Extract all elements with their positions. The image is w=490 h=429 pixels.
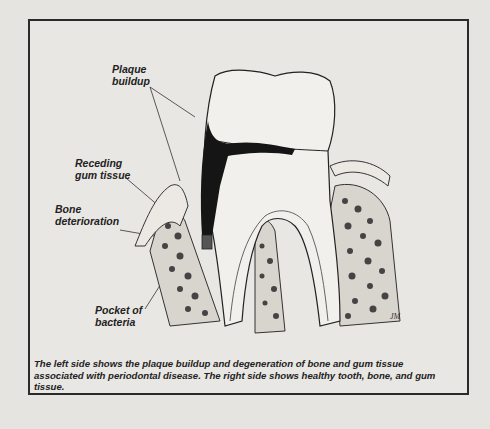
label-line: Plaque: [112, 63, 150, 75]
tooth-drawing-icon: JM: [30, 21, 467, 351]
figure-caption: The left side shows the plaque buildup a…: [34, 358, 454, 393]
label-line: deterioration: [55, 215, 119, 227]
label-line: bacteria: [95, 316, 142, 328]
label-bone-deterioration: Bone deterioration: [55, 203, 119, 227]
label-pocket-bacteria: Pocket of bacteria: [95, 304, 142, 328]
label-receding-gum: Receding gum tissue: [75, 157, 130, 181]
label-plaque-buildup: Plaque buildup: [112, 63, 150, 87]
label-line: buildup: [112, 75, 150, 87]
label-line: Bone: [55, 203, 119, 215]
label-line: gum tissue: [75, 169, 130, 181]
figure-frame: JM Plaque buildup Receding gum tissue Bo…: [28, 19, 469, 395]
label-line: Receding: [75, 157, 130, 169]
tooth-illustration: JM Plaque buildup Receding gum tissue Bo…: [30, 21, 467, 351]
svg-text:JM: JM: [390, 312, 402, 321]
label-line: Pocket of: [95, 304, 142, 316]
